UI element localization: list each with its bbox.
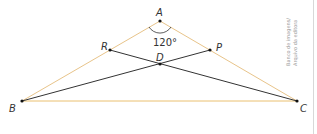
segment-bp (22, 50, 210, 101)
point-p (208, 48, 211, 51)
segment-cr (110, 50, 297, 101)
label-p: P (216, 42, 223, 53)
point-b (20, 99, 23, 102)
label-a: A (155, 7, 163, 18)
label-d: D (156, 52, 164, 63)
side-ac (160, 21, 297, 101)
point-c (295, 99, 298, 102)
point-a (158, 19, 161, 22)
label-c: C (300, 103, 307, 114)
angle-arc-a (149, 27, 171, 33)
label-b: B (9, 103, 16, 114)
geometry-figure: A B C R P D 120° Banco de imagens/ Arqui… (0, 0, 317, 134)
divider-line (313, 0, 314, 134)
image-credit-line1: Banco de imagens/ (285, 18, 292, 66)
label-r: R (101, 41, 108, 52)
image-credit-line2: Arquivo da editora (292, 20, 299, 66)
angle-label: 120° (153, 37, 177, 48)
side-ab (22, 21, 160, 101)
point-r (108, 48, 111, 51)
